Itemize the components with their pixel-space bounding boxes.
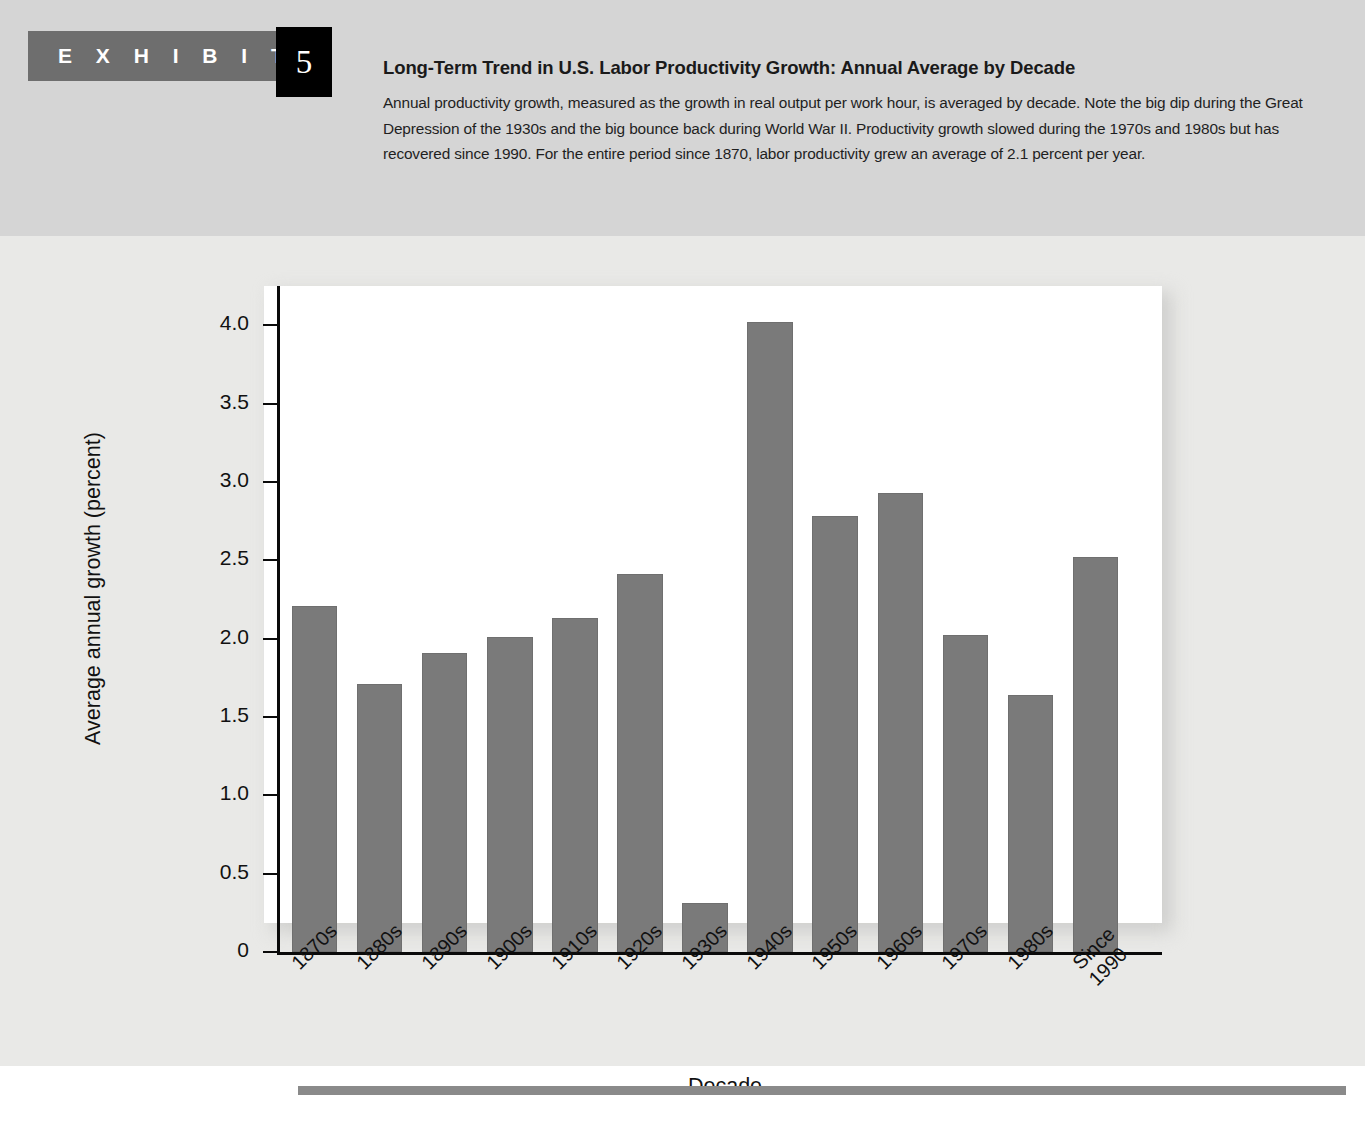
exhibit-label-text: E X H I B I T — [58, 44, 293, 68]
bar-series — [280, 286, 1162, 952]
y-tick-mark — [263, 794, 278, 796]
y-tick-label: 2.5 — [185, 546, 249, 570]
y-tick-mark — [263, 951, 278, 953]
y-tick-mark — [263, 481, 278, 483]
y-tick-mark — [263, 873, 278, 875]
chart-container: 00.51.01.52.02.53.03.54.0 Average annual… — [0, 236, 1365, 1066]
y-tick-label: 3.5 — [185, 390, 249, 414]
y-tick-mark — [263, 324, 278, 326]
page-title: Long-Term Trend in U.S. Labor Productivi… — [383, 57, 1323, 79]
y-tick-mark — [263, 638, 278, 640]
y-tick-label: 4.0 — [185, 311, 249, 335]
exhibit-description: Annual productivity growth, measured as … — [383, 90, 1331, 167]
y-tick-mark — [263, 559, 278, 561]
y-tick-mark — [263, 716, 278, 718]
y-tick-mark — [263, 403, 278, 405]
x-axis-labels: 1870s1880s1890s1900s1910s1920s1930s1940s… — [280, 958, 1162, 1068]
y-tick-label: 0.5 — [185, 860, 249, 884]
exhibit-header-band: E X H I B I T 5 Long-Term Trend in U.S. … — [0, 0, 1365, 236]
bar-1870s — [292, 606, 338, 952]
footer-rule — [298, 1086, 1346, 1095]
y-tick-label: 3.0 — [185, 468, 249, 492]
y-tick-label: 0 — [185, 938, 249, 962]
bar-1940s — [747, 322, 793, 952]
exhibit-number: 5 — [276, 27, 332, 97]
y-tick-label: 1.5 — [185, 703, 249, 727]
y-axis-title: Average annual growth (percent) — [81, 374, 106, 804]
y-tick-label: 1.0 — [185, 781, 249, 805]
y-tick-label: 2.0 — [185, 625, 249, 649]
